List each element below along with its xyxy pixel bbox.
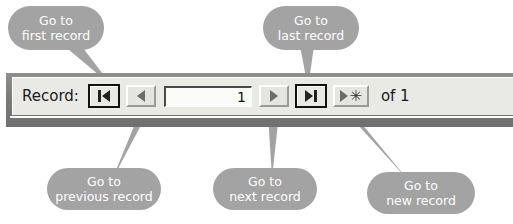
first-record-icon xyxy=(98,90,110,102)
navbar-highlight-line xyxy=(10,116,513,118)
callout-first-record: Go to first record xyxy=(8,6,104,50)
callout-next-line2: next record xyxy=(229,189,301,204)
callout-next-record: Go to next record xyxy=(213,168,317,210)
total-records-text: of 1 xyxy=(381,87,410,105)
record-label: Record: xyxy=(22,87,79,105)
new-record-icon: ✳ xyxy=(340,90,363,102)
new-record-button[interactable]: ✳ xyxy=(333,85,369,107)
screenshot-stage: Record: 1 xyxy=(0,0,513,224)
asterisk-icon: ✳ xyxy=(350,90,363,102)
last-record-icon xyxy=(305,90,317,102)
record-number-input[interactable]: 1 xyxy=(164,86,252,107)
next-record-button[interactable] xyxy=(259,85,289,107)
callout-previous-line1: Go to xyxy=(87,174,121,189)
first-record-button[interactable] xyxy=(88,84,120,108)
callout-previous-line2: previous record xyxy=(55,189,152,204)
callout-first-line1: Go to xyxy=(39,13,73,28)
callout-new-record: Go to new record xyxy=(367,172,475,214)
callout-last-record: Go to last record xyxy=(263,6,359,50)
callout-last-line1: Go to xyxy=(294,13,328,28)
callout-next-line1: Go to xyxy=(248,174,282,189)
last-record-button[interactable] xyxy=(295,84,327,108)
callout-first-line2: first record xyxy=(22,28,90,43)
callout-last-line2: last record xyxy=(278,28,344,43)
callout-new-line2: new record xyxy=(386,193,456,208)
record-navigation-bar: Record: 1 xyxy=(0,73,513,127)
next-record-icon xyxy=(270,90,278,102)
callout-previous-record: Go to previous record xyxy=(47,168,161,210)
callout-new-line1: Go to xyxy=(404,178,438,193)
navbar-content: Record: 1 xyxy=(12,77,410,115)
previous-record-button[interactable] xyxy=(126,85,156,107)
previous-record-icon xyxy=(137,90,145,102)
